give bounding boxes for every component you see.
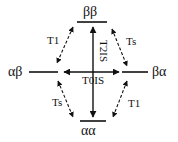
dashed-arrow-top-right: [112, 29, 127, 66]
state-label-left: αβ: [8, 65, 22, 79]
transition-label-vertical: T2IS: [98, 40, 109, 62]
transition-label-horizontal: T0IS: [82, 75, 104, 86]
energy-level-diagram: ββ αβ βα αα T1 Ts Ts T1 T2IS T0IS: [0, 0, 178, 142]
state-label-bottom: αα: [81, 124, 96, 138]
state-label-right: βα: [152, 65, 166, 79]
transition-label-top-right: Ts: [126, 36, 136, 47]
transition-label-bottom-left: Ts: [52, 97, 62, 108]
transition-label-bottom-right: T1: [128, 98, 140, 109]
dashed-arrow-bottom-right: [113, 81, 127, 117]
state-label-top: ββ: [83, 5, 97, 19]
dashed-arrow-top-left: [57, 27, 73, 63]
transition-label-top-left: T1: [47, 35, 59, 46]
